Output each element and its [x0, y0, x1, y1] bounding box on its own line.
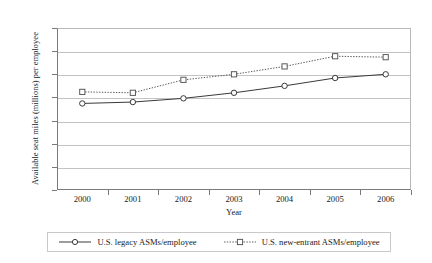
x-tick-mark — [209, 190, 210, 195]
chart-figure: Available seat miles (millions) per empl… — [0, 0, 432, 263]
chart-legend: U.S. legacy ASMs/employee U.S. new-entra… — [47, 232, 391, 252]
y-axis-title: Available seat miles (millions) per empl… — [31, 14, 40, 204]
x-tick-label: 2000 — [60, 194, 104, 204]
y-tick-mark — [52, 97, 57, 98]
legend-key-dotted-square-icon — [223, 237, 257, 247]
gridline — [58, 122, 410, 123]
x-tick-label: 2004 — [263, 194, 307, 204]
y-tick-mark — [52, 74, 57, 75]
y-tick-mark — [52, 51, 57, 52]
x-tick-mark — [411, 190, 412, 195]
legend-label-new-entrant: U.S. new-entrant ASMs/employee — [262, 237, 380, 247]
x-tick-mark — [259, 190, 260, 195]
gridline — [58, 98, 410, 99]
y-tick-mark — [52, 28, 57, 29]
y-tick-mark — [52, 167, 57, 168]
x-tick-label: 2006 — [364, 194, 408, 204]
x-axis-title: Year — [57, 207, 411, 217]
y-tick-mark — [52, 190, 57, 191]
y-tick-mark — [52, 121, 57, 122]
plot-area — [57, 28, 411, 190]
legend-key-solid-circle-icon — [58, 237, 92, 247]
x-tick-mark — [108, 190, 109, 195]
legend-item-new-entrant: U.S. new-entrant ASMs/employee — [223, 237, 380, 247]
x-tick-label: 2005 — [313, 194, 357, 204]
gridline — [58, 75, 410, 76]
legend-label-legacy: U.S. legacy ASMs/employee — [97, 237, 196, 247]
gridline — [58, 145, 410, 146]
gridline — [58, 168, 410, 169]
x-tick-mark — [360, 190, 361, 195]
x-tick-mark — [158, 190, 159, 195]
gridline — [58, 52, 410, 53]
x-tick-label: 2001 — [111, 194, 155, 204]
x-tick-label: 2003 — [212, 194, 256, 204]
y-tick-mark — [52, 144, 57, 145]
x-tick-label: 2002 — [161, 194, 205, 204]
legend-item-legacy: U.S. legacy ASMs/employee — [58, 237, 196, 247]
x-tick-mark — [310, 190, 311, 195]
